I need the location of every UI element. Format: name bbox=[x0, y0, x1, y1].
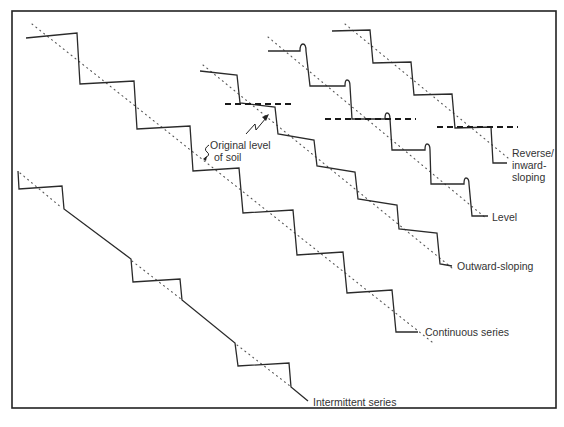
terrace-diagram: Original level of soil Reverse/ inward- … bbox=[0, 0, 564, 427]
reverse-label-line2: inward- bbox=[512, 159, 547, 171]
reverse-label-line3: sloping bbox=[512, 171, 545, 183]
diagram-frame bbox=[12, 11, 556, 408]
reverse-series bbox=[332, 24, 518, 163]
small-arrowhead-icon bbox=[203, 156, 207, 161]
level-original-slope bbox=[268, 37, 487, 219]
intermittent-series bbox=[18, 171, 308, 401]
reverse-original-slope bbox=[345, 24, 508, 158]
intermittent-series-label: Intermittent series bbox=[313, 396, 396, 408]
original-level-annotation: Original level of soil bbox=[203, 114, 271, 163]
intermittent-slope-1 bbox=[20, 173, 62, 208]
reverse-profile bbox=[332, 30, 507, 163]
arrowhead-icon bbox=[262, 114, 269, 121]
original-level-label-line1: Original level bbox=[210, 139, 271, 151]
outward-sloping-label: Outward-sloping bbox=[457, 260, 534, 272]
reverse-label-line1: Reverse/ bbox=[512, 147, 554, 159]
continuous-series-label: Continuous series bbox=[425, 326, 509, 338]
level-label: Level bbox=[492, 211, 517, 223]
continuous-profile bbox=[26, 33, 418, 332]
continuous-original-slope bbox=[32, 24, 432, 342]
squiggle-icon bbox=[205, 145, 209, 158]
original-level-label-line2: of soil bbox=[214, 151, 241, 163]
continuous-series bbox=[26, 24, 432, 342]
level-profile bbox=[268, 44, 488, 216]
arrow-icon bbox=[246, 118, 266, 134]
